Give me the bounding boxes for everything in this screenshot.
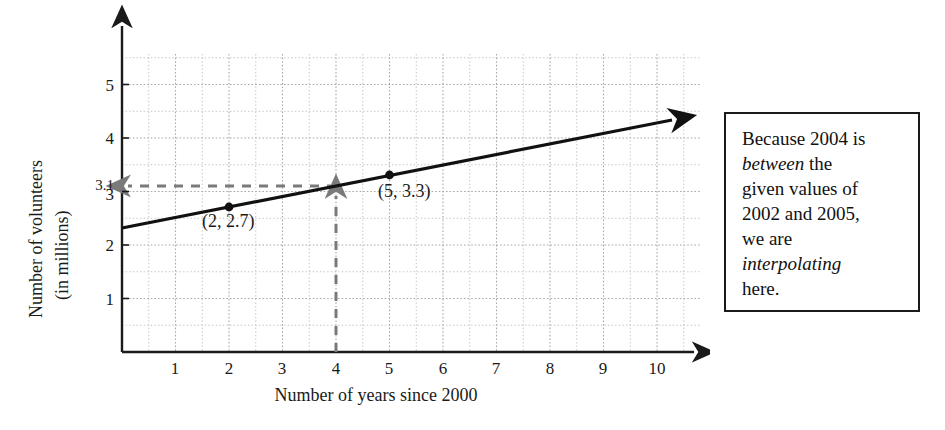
x-tick-label: 7 — [479, 360, 513, 377]
x-tick-label: 2 — [212, 360, 246, 377]
x-tick-label: 8 — [533, 360, 567, 377]
y-tick-label-interpolated: 3.1 — [68, 178, 114, 193]
x-tick-label: 1 — [158, 360, 192, 377]
callout-line-rest: the — [804, 153, 832, 174]
data-point — [385, 171, 394, 180]
y-axis-title-units: (in millions) — [52, 211, 73, 301]
callout-box: Because 2004 is between the given values… — [724, 112, 920, 312]
callout-line: here. — [742, 276, 918, 301]
x-tick-label: 10 — [640, 360, 674, 377]
x-tick-label: 9 — [586, 360, 620, 377]
callout-emphasis-between: between — [742, 153, 804, 174]
data-point-label: (2, 2.7) — [202, 212, 255, 230]
callout-text: Because 2004 is between the given values… — [742, 126, 918, 302]
grid-minor — [122, 54, 700, 352]
y-axis-title: Number of volunteers — [26, 160, 47, 318]
data-point-label: (5, 3.3) — [378, 182, 431, 200]
x-tick-label: 3 — [265, 360, 299, 377]
x-axis-title: Number of years since 2000 — [196, 385, 556, 406]
y-tick-label: 5 — [70, 77, 114, 94]
y-tick-label: 4 — [70, 130, 114, 147]
y-tick-label: 2 — [70, 237, 114, 254]
chart-area: 1 2 3 4 5 6 7 8 9 10 1 2 3 4 5 3.1 Numbe… — [0, 0, 710, 430]
callout-line: given values of — [742, 176, 918, 201]
x-tick-label: 5 — [372, 360, 406, 377]
callout-line: 2002 and 2005, — [742, 201, 918, 226]
chart-page: 1 2 3 4 5 6 7 8 9 10 1 2 3 4 5 3.1 Numbe… — [0, 0, 945, 430]
callout-line: Because 2004 is — [742, 126, 918, 151]
callout-line: we are — [742, 226, 918, 251]
callout-emphasis-interpolating: interpolating — [742, 251, 918, 276]
grid-major — [122, 54, 700, 352]
x-tick-label: 6 — [426, 360, 460, 377]
y-tick-label: 1 — [70, 291, 114, 308]
callout-line: between the — [742, 151, 918, 176]
x-tick-label: 4 — [319, 360, 353, 377]
